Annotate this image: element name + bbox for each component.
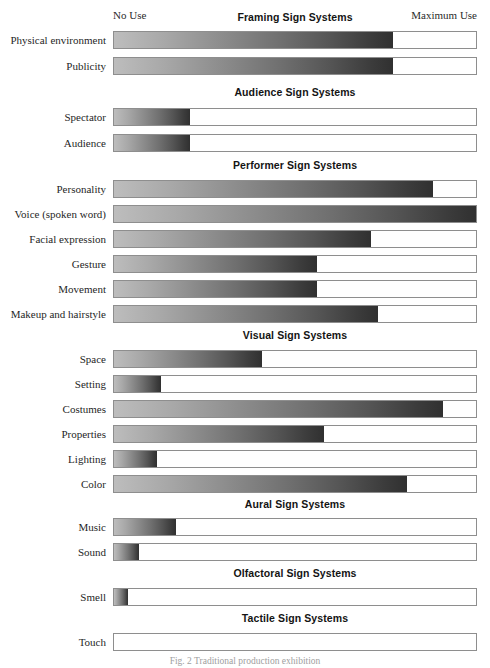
bar-row: Setting [0,375,490,393]
bar-row-label: Smell [0,588,106,606]
bar-row-label: Voice (spoken word) [0,205,106,223]
section-title: Aural Sign Systems [113,497,477,511]
bar-row-label: Personality [0,180,106,198]
bar-row: Sound [0,543,490,561]
bar-row-label: Properties [0,425,106,443]
section-title: Tactile Sign Systems [113,611,477,625]
figure-caption: Fig. 2 Traditional production exhibition [0,656,490,666]
bar-fill [114,109,190,125]
bar-fill [114,544,139,560]
bar-fill [114,306,378,322]
section-title: Framing Sign Systems [113,10,477,24]
bar-fill [114,519,176,535]
bar-row: Publicity [0,57,490,75]
bar-row-label: Facial expression [0,230,106,248]
bar-track [113,31,477,49]
bar-fill [114,351,262,367]
bar-track [113,450,477,468]
bar-track [113,518,477,536]
bar-row-label: Lighting [0,450,106,468]
bar-fill [114,206,476,222]
bar-track [113,230,477,248]
bar-row: Voice (spoken word) [0,205,490,223]
bar-fill [114,231,371,247]
bar-track [113,425,477,443]
bar-row-label: Costumes [0,400,106,418]
bar-row: Touch [0,633,490,651]
bar-row-label: Makeup and hairstyle [0,305,106,323]
bar-row: Color [0,475,490,493]
bar-row: Costumes [0,400,490,418]
section-title: Visual Sign Systems [113,328,477,342]
bar-row-label: Setting [0,375,106,393]
bar-fill [114,281,317,297]
bar-track [113,350,477,368]
bar-track [113,375,477,393]
bar-row-label: Spectator [0,108,106,126]
bar-row: Facial expression [0,230,490,248]
bar-track [113,543,477,561]
section-title: Olfactoral Sign Systems [113,566,477,580]
bar-row-label: Space [0,350,106,368]
bar-row: Smell [0,588,490,606]
bar-row-label: Gesture [0,255,106,273]
bar-row: Personality [0,180,490,198]
bar-track [113,475,477,493]
bar-track [113,205,477,223]
bar-fill [114,426,324,442]
bar-row-label: Movement [0,280,106,298]
bar-fill [114,451,157,467]
bar-row: Gesture [0,255,490,273]
bar-row-label: Sound [0,543,106,561]
bar-fill [114,256,317,272]
bar-row: Space [0,350,490,368]
bar-row-label: Touch [0,633,106,651]
bar-row: Physical environment [0,31,490,49]
bar-track [113,400,477,418]
bar-row: Movement [0,280,490,298]
bar-row: Makeup and hairstyle [0,305,490,323]
bar-row-label: Music [0,518,106,536]
bar-fill [114,58,393,74]
bar-track [113,633,477,651]
bar-track [113,280,477,298]
bar-track [113,255,477,273]
bar-row: Audience [0,134,490,152]
bar-row: Lighting [0,450,490,468]
section-title: Performer Sign Systems [113,158,477,172]
bar-row-label: Audience [0,134,106,152]
bar-fill [114,589,128,605]
sign-systems-chart: No Use Maximum Use Framing Sign SystemsP… [0,0,490,668]
bar-fill [114,376,161,392]
bar-fill [114,401,443,417]
bar-track [113,305,477,323]
bar-track [113,134,477,152]
bar-row: Music [0,518,490,536]
bar-row: Spectator [0,108,490,126]
bar-track [113,57,477,75]
bar-track [113,180,477,198]
bar-row-label: Color [0,475,106,493]
bar-fill [114,32,393,48]
bar-row: Properties [0,425,490,443]
bar-fill [114,181,433,197]
bar-fill [114,135,190,151]
bar-fill [114,476,407,492]
bar-row-label: Publicity [0,57,106,75]
bar-row-label: Physical environment [0,31,106,49]
bar-track [113,108,477,126]
section-title: Audience Sign Systems [113,85,477,99]
bar-track [113,588,477,606]
